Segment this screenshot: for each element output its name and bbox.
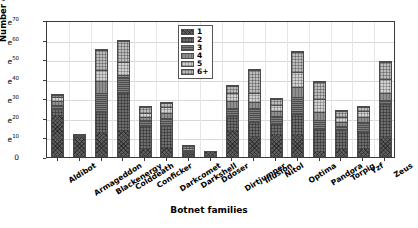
bar-segment-6plus [227, 86, 238, 94]
x-tick-mark-0 [57, 158, 58, 161]
bar-segment-1 [292, 135, 303, 156]
x-tick-mark-11 [297, 158, 298, 161]
gridline-v-10 [265, 22, 266, 157]
y-tick-mark-0 [43, 158, 46, 159]
bar-segment-6plus [249, 70, 260, 93]
gridline-v-9 [243, 22, 244, 157]
legend-swatch-2 [181, 37, 194, 44]
gridline-v-2 [91, 22, 92, 157]
bar-zeus[interactable] [379, 61, 392, 157]
bar-segment-4 [227, 101, 238, 109]
bar-segment-1 [205, 152, 216, 156]
bar-segment-6plus [314, 82, 325, 99]
bar-darkcomet[interactable] [160, 102, 173, 157]
bar-segment-1 [271, 135, 282, 156]
bar-segment-3 [227, 108, 238, 116]
plot-area [46, 21, 395, 158]
bar-optima[interactable] [291, 51, 304, 157]
y-axis-tick-6: e60 [0, 36, 19, 47]
bar-segment-2 [118, 93, 129, 131]
bar-segment-5 [249, 93, 260, 103]
bar-segment-2 [358, 132, 369, 149]
bar-segment-1 [183, 155, 194, 156]
bar-segment-1 [74, 138, 85, 156]
gridline-v-4 [134, 22, 135, 157]
x-tick-mark-6 [188, 158, 189, 161]
bar-segment-1 [227, 131, 238, 156]
legend-swatch-3 [181, 45, 194, 52]
gridline-v-3 [112, 22, 113, 157]
bar-segment-6plus [118, 41, 129, 62]
bar-segment-1 [161, 148, 172, 156]
bar-conficker[interactable] [139, 106, 152, 157]
bar-segment-2 [380, 104, 391, 137]
bar-colddeath[interactable] [117, 40, 130, 157]
bar-segment-2 [271, 124, 282, 135]
bar-ddoser[interactable] [204, 151, 217, 157]
legend-item-6plus[interactable]: 6+ [181, 68, 209, 76]
bar-segment-1 [358, 149, 369, 156]
gridline-v-13 [331, 22, 332, 157]
y-axis-tick-7: e70 [0, 16, 19, 27]
gridline-v-5 [156, 22, 157, 157]
y-tick-mark-2 [43, 119, 46, 120]
legend-label-6plus: 6+ [197, 68, 209, 76]
bar-segment-4 [380, 93, 391, 101]
chart-figure: Number of Unique IPs 0e10e20e30e40e50e60… [0, 0, 418, 228]
legend-item-1[interactable]: 1 [181, 28, 209, 36]
bar-segment-5 [96, 70, 107, 82]
y-tick-mark-7 [43, 21, 46, 22]
y-tick-mark-1 [43, 138, 46, 139]
bar-segment-3 [249, 108, 260, 121]
bar-segment-2 [336, 130, 347, 149]
bar-segment-3 [271, 116, 282, 124]
bar-blackenergy[interactable] [95, 49, 108, 157]
x-tick-mark-2 [101, 158, 102, 161]
bar-segment-1 [249, 137, 260, 156]
legend-item-3[interactable]: 3 [181, 44, 209, 52]
bar-aldibot[interactable] [51, 94, 64, 157]
y-tick-mark-6 [43, 41, 46, 42]
x-tick-mark-15 [384, 158, 385, 161]
x-tick-mark-7 [210, 158, 211, 161]
y-axis-tick-5: e50 [0, 55, 19, 66]
legend-item-4[interactable]: 4 [181, 52, 209, 60]
bar-torpig[interactable] [335, 110, 348, 157]
legend-swatch-6plus [181, 69, 194, 76]
bar-segment-3 [161, 118, 172, 126]
bar-segment-2 [140, 126, 151, 149]
bar-segment-2 [96, 112, 107, 133]
gridline-v-1 [69, 22, 70, 157]
x-tick-mark-10 [275, 158, 276, 161]
bar-illusion[interactable] [248, 69, 261, 157]
bar-segment-5 [380, 79, 391, 92]
x-tick-mark-12 [319, 158, 320, 161]
y-axis-tick-2: e20 [0, 114, 19, 125]
x-axis-tick-zeus: Zeus [392, 161, 414, 180]
bar-dirtjumper[interactable] [226, 85, 239, 157]
bar-yzf[interactable] [357, 106, 370, 157]
bar-segment-2 [314, 129, 325, 152]
bar-darkshell[interactable] [182, 145, 195, 157]
bar-nitol[interactable] [270, 98, 283, 157]
bar-segment-2 [292, 114, 303, 135]
bar-segment-5 [314, 99, 325, 112]
bar-segment-6plus [380, 62, 391, 79]
y-axis-tick-1: e10 [0, 133, 19, 144]
bar-segment-1 [96, 133, 107, 156]
gridline-v-8 [222, 22, 223, 157]
x-axis-label: Botnet families [0, 205, 418, 215]
bar-segment-6plus [292, 52, 303, 71]
legend-item-2[interactable]: 2 [181, 36, 209, 44]
bar-segment-3 [358, 122, 369, 131]
bar-segment-1 [118, 131, 129, 156]
y-axis-tick-0: 0 [0, 153, 19, 162]
bar-pandora[interactable] [313, 81, 326, 157]
bar-armageddon[interactable] [73, 134, 86, 157]
gridline-v-15 [374, 22, 375, 157]
bar-segment-2 [227, 116, 238, 131]
bar-segment-1 [336, 149, 347, 156]
x-tick-mark-3 [122, 158, 123, 161]
bar-segment-3 [118, 77, 129, 92]
gridline-v-14 [352, 22, 353, 157]
